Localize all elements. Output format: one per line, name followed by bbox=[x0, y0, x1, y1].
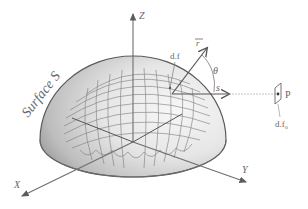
area-element-dot bbox=[169, 87, 171, 89]
vector-s-label: s bbox=[216, 82, 220, 93]
z-axis-label: Z bbox=[139, 10, 145, 21]
x-axis-label: X bbox=[13, 179, 21, 190]
surface-integral-diagram: Z X Y Surface S d.f r θ s P d.fo bbox=[0, 0, 308, 209]
vector-r-label: r bbox=[196, 38, 200, 48]
point-element-label: d.fo bbox=[275, 119, 288, 130]
y-axis-label: Y bbox=[242, 164, 249, 175]
point-p-element bbox=[275, 83, 281, 117]
angle-theta-label: θ bbox=[213, 65, 218, 76]
area-element-label: d.f bbox=[170, 51, 180, 61]
point-p-label: P bbox=[285, 89, 291, 100]
